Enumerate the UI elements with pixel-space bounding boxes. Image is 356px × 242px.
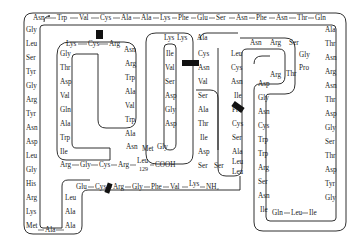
res-l4-5: Trp	[258, 150, 269, 158]
res-right-4: Asn	[325, 82, 337, 90]
res-right-3: Arg	[325, 68, 336, 76]
res-l3-2: Asn	[231, 78, 243, 86]
res-inner-right-5: Trp	[125, 116, 136, 124]
disulfide-6-127	[96, 30, 103, 39]
res-top-7: Phe	[178, 14, 189, 22]
res-l2-right-0: Cys	[198, 50, 209, 58]
res-gly-pro-0: Gly	[299, 51, 310, 59]
res-bottom-2: Arg	[113, 183, 124, 191]
res-top-14: Gln	[315, 14, 326, 22]
res-top-13: Thr	[297, 14, 308, 22]
res-l4-7: Ser	[258, 178, 268, 186]
res-right-8: Ser	[325, 138, 335, 146]
res-l3-0: Leu	[231, 50, 243, 58]
res-left-inner-0: Leu	[65, 194, 77, 202]
res-right-6: Asp	[325, 110, 337, 118]
res-top-9: Ser	[216, 14, 226, 22]
res-num129: 129	[139, 166, 148, 172]
res-leu129: Leu	[137, 157, 149, 165]
res-bottom-4: Phe	[151, 183, 162, 191]
res-right-11: Tyr	[325, 180, 335, 188]
res-br-1: Leu	[291, 209, 303, 217]
res-l2-right-4: Ala	[198, 106, 209, 114]
res-l4-9: Ile	[260, 206, 268, 214]
res-inner-top-1: Cys	[88, 40, 99, 48]
res-left-13: Lys	[26, 208, 37, 216]
res-l3-4: Pro	[232, 106, 242, 114]
res-l2-left-5: Asp	[165, 120, 177, 128]
res-right-10: Asp	[325, 166, 337, 174]
res-l4-4: Trp	[258, 136, 269, 144]
res-arg-thr-0: Arg	[270, 71, 281, 79]
res-inner-left-0: Gly	[60, 50, 71, 58]
res-right-12: Gly	[325, 194, 336, 202]
res-l3-7: Ala	[232, 148, 243, 156]
res-inner-left-2: Asp	[60, 78, 72, 86]
res-inner-right-4: Val	[125, 102, 135, 110]
res-l3-1: Cys	[231, 64, 242, 72]
res-inner-bottom-2: Cys	[99, 161, 110, 169]
res-left-10: Gly	[26, 166, 37, 174]
res-inner-right-6: Ala	[125, 130, 136, 138]
res-left-0: Gly	[26, 26, 37, 34]
res-inner-top-0: Lys	[66, 40, 77, 48]
residue-labels: Asn Trp Val Cys Ala Ala Lys Phe Glu Ser …	[26, 14, 337, 234]
res-l3-top-2: Ser	[289, 39, 299, 47]
res-top-11: Phe	[256, 14, 267, 22]
res-top-10: Asn	[236, 14, 248, 22]
res-bottom-1: Cys	[95, 183, 106, 191]
res-bottom-0: Glu	[76, 183, 87, 191]
res-amg-2: Gly	[157, 143, 168, 151]
res-amg-1: Met	[142, 145, 154, 153]
res-top-0: Asn	[33, 14, 45, 22]
res-top-8: Glu	[197, 14, 208, 22]
res-l2-right-7: Asp	[198, 148, 210, 156]
res-left-9: Leu	[26, 152, 38, 160]
res-br-0: Gln	[272, 209, 283, 217]
res-l2-left-2: Ser	[165, 78, 175, 86]
res-br-2: Ile	[309, 209, 317, 217]
res-l2-left-0: Ile	[166, 50, 174, 58]
res-l4-2: Asn	[258, 108, 270, 116]
res-right-9: Thr	[325, 152, 336, 160]
res-inner-bottom-3: Arg	[118, 161, 129, 169]
res-l2-top-0: Lys	[164, 34, 175, 42]
res-inner-left-7: Ile	[60, 148, 68, 156]
res-l2-right-6: Ile	[200, 134, 208, 142]
res-inner-left-4: Gln	[60, 106, 71, 114]
res-left-12: Arg	[26, 194, 37, 202]
res-bottom-5: Val	[170, 183, 180, 191]
res-left-4: Gly	[26, 82, 37, 90]
res-inner-left-3: Val	[60, 92, 70, 100]
res-top-12: Asn	[276, 14, 288, 22]
res-l4-8: Asn	[258, 192, 270, 200]
res-left-2: Ser	[26, 54, 36, 62]
res-bottom-3: Gly	[132, 183, 143, 191]
res-left-inner-2: Ala	[65, 222, 76, 230]
res-left-7: Asn	[26, 124, 38, 132]
res-top-4: Ala	[121, 14, 132, 22]
res-l4-0: Asp	[258, 80, 270, 88]
res-right-0: Ala	[325, 26, 336, 34]
res-l4-1: Gly	[258, 94, 269, 102]
res-ser-ser-1: Ser	[214, 162, 224, 170]
res-l3-top-0: Asn	[250, 39, 262, 47]
res-gly-pro-1: Pro	[299, 64, 309, 72]
res-cooh: COOH	[155, 161, 175, 169]
res-l3-6: Ser	[232, 134, 242, 142]
res-inner-left-1: Thr	[60, 64, 71, 72]
res-amg-0: Asn	[126, 143, 138, 151]
res-ala-bottom: Ala	[45, 226, 56, 234]
res-l3-9: Leu	[232, 168, 244, 176]
res-left-11: His	[26, 180, 36, 188]
res-inner-right-3: Ala	[125, 88, 136, 96]
res-inner-left-6: Trp	[60, 134, 71, 142]
res-inner-bottom-1: Gly	[80, 161, 91, 169]
res-top-3: Cys	[100, 14, 111, 22]
res-l2-top-1: Lys	[177, 34, 188, 42]
res-top-5: Ala	[141, 14, 152, 22]
res-inner-top-2: Arg	[109, 40, 120, 48]
res-right-2: Asn	[325, 54, 337, 62]
res-lys-nterm: Lys	[189, 180, 200, 188]
res-inner-right-0: Asn	[124, 46, 136, 54]
